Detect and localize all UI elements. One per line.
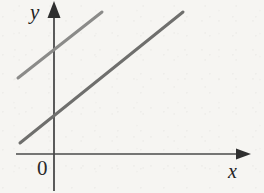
series-group bbox=[18, 12, 183, 143]
axes-group bbox=[16, 1, 251, 191]
y-axis-label: y bbox=[30, 2, 39, 23]
line-graph-figure: y x 0 bbox=[0, 0, 264, 193]
x-axis-label: x bbox=[228, 161, 237, 181]
y-axis-arrowhead-icon bbox=[48, 1, 61, 18]
lower-line-segment bbox=[20, 12, 183, 143]
x-axis-arrowhead-icon bbox=[236, 149, 251, 160]
origin-label: 0 bbox=[37, 158, 48, 179]
